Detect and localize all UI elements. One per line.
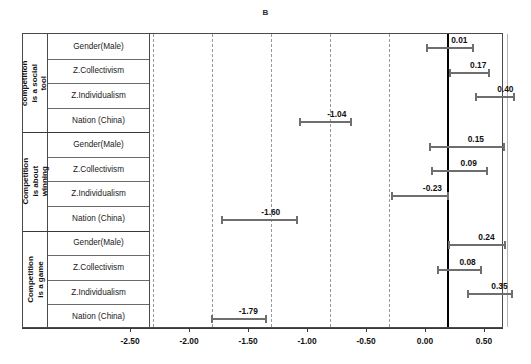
estimate-label: 0.35 (491, 281, 507, 291)
error-bar (426, 47, 474, 49)
x-axis-tick (307, 328, 308, 332)
estimate-label: -1.79 (239, 306, 258, 316)
x-axis-tick-label: 0.50 (476, 336, 492, 346)
row-label: Z.Individualism (48, 181, 149, 206)
plot-frame: Gender(Male)Z.CollectivismZ.Individualis… (22, 33, 503, 328)
estimate-label: -1.04 (327, 109, 346, 119)
x-axis-tick-label: -1.50 (238, 336, 257, 346)
group-label: Competition is about winning (23, 132, 47, 230)
x-axis-tick-label: -1.00 (297, 336, 316, 346)
error-bar (437, 269, 482, 271)
group-label: competition is a social tool (23, 34, 47, 132)
group-label-text: competition is a social tool (21, 60, 50, 105)
row-label: Nation (China) (48, 206, 149, 231)
forest-plot-figure: B Gender(Male)Z.CollectivismZ.Individual… (0, 0, 531, 364)
group-label: Competition is a game (23, 231, 47, 329)
row-label: Gender(Male) (48, 231, 149, 256)
x-axis-tick (248, 328, 249, 332)
estimate-label: 0.40 (497, 84, 513, 94)
error-bar (449, 72, 490, 74)
gridline (153, 34, 154, 327)
row-label: Gender(Male) (48, 34, 149, 59)
row-label: Z.Collectivism (48, 255, 149, 280)
estimate-label: 0.09 (461, 158, 477, 168)
row-label: Z.Individualism (48, 83, 149, 108)
row-label: Nation (China) (48, 304, 149, 329)
group-label-text: Competition is about winning (21, 158, 50, 205)
x-axis-tick-label: -2.00 (179, 336, 198, 346)
error-bar (211, 318, 268, 320)
error-bar (475, 96, 515, 98)
estimate-label: 0.15 (468, 134, 484, 144)
error-bar (391, 195, 449, 197)
estimate-label: -1.60 (261, 207, 280, 217)
x-axis-tick-label: 0.00 (417, 336, 433, 346)
estimate-label: -0.23 (423, 183, 442, 193)
x-axis-tick-label: -0.50 (356, 336, 375, 346)
gridline (212, 34, 213, 327)
row-label: Nation (China) (48, 108, 149, 133)
row-label: Z.Collectivism (48, 59, 149, 84)
panel-title: B (0, 8, 531, 17)
row-label: Gender(Male) (48, 132, 149, 157)
estimate-label: 0.24 (478, 232, 494, 242)
gridline (330, 34, 331, 327)
row-label: Z.Collectivism (48, 157, 149, 182)
row-label: Z.Individualism (48, 280, 149, 305)
group-label-text: Competition is a game (26, 256, 45, 303)
x-axis-tick (484, 328, 485, 332)
gridline (389, 34, 390, 327)
error-bar (299, 121, 352, 123)
x-axis-tick (189, 328, 190, 332)
error-bar (429, 146, 505, 148)
x-axis-tick (425, 328, 426, 332)
zero-reference-line (447, 34, 449, 327)
x-axis-tick-label: -2.50 (120, 336, 139, 346)
x-axis-line (22, 328, 503, 329)
plot-canvas: 0.010.170.40-1.040.150.09-0.23-1.600.240… (150, 34, 502, 327)
estimate-label: 0.01 (451, 35, 467, 45)
estimate-label: 0.17 (470, 60, 486, 70)
error-bar (431, 170, 488, 172)
x-axis-tick (366, 328, 367, 332)
error-bar (221, 219, 298, 221)
x-axis-tick (130, 328, 131, 332)
gridline (271, 34, 272, 327)
estimate-label: 0.08 (459, 257, 475, 267)
error-bar (467, 293, 513, 295)
error-bar (448, 244, 506, 246)
